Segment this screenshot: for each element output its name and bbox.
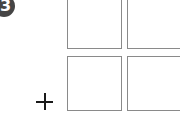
grid-cell-top-left[interactable] xyxy=(67,0,122,49)
step-number-label: 3 xyxy=(0,0,11,15)
plus-vertical-stroke xyxy=(44,93,46,110)
add-plus-icon[interactable] xyxy=(36,93,53,110)
grid-cell-bottom-right[interactable] xyxy=(127,56,180,111)
grid-cell-bottom-left[interactable] xyxy=(67,56,122,111)
grid-cell-top-right[interactable] xyxy=(127,0,180,49)
step-number-badge: 3 xyxy=(0,0,15,17)
